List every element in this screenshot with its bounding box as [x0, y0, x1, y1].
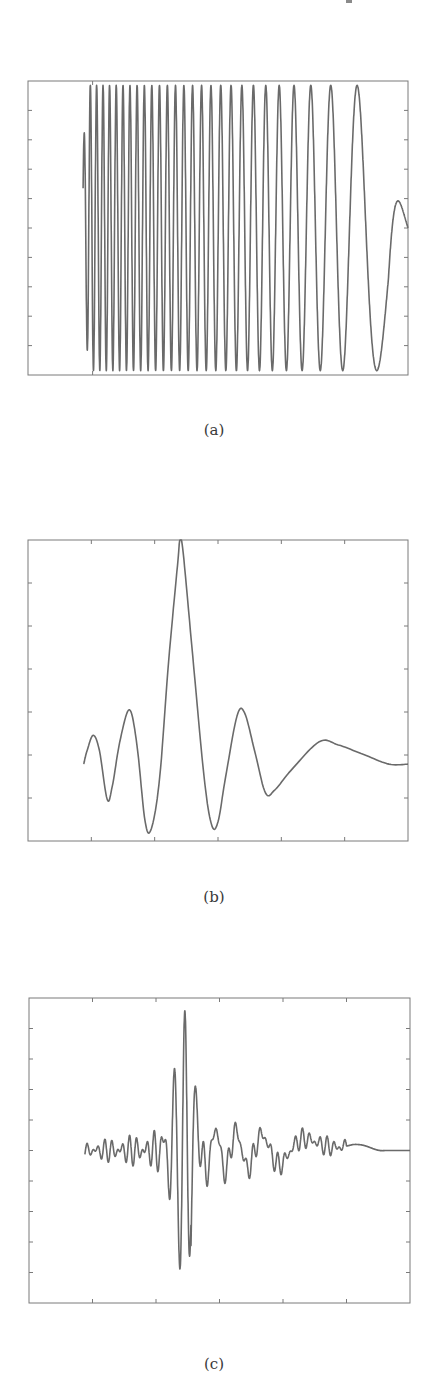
- figure-panel-c: (c): [0, 0, 428, 1394]
- chart-c-plot: [0, 0, 428, 1394]
- signal-line: [85, 1011, 410, 1269]
- caption-c: (c): [0, 1355, 428, 1373]
